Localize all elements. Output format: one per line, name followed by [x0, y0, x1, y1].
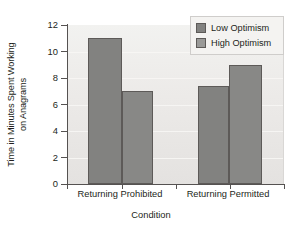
plot-area: Low Optimism High Optimism — [68, 25, 284, 184]
y-tick-8 — [61, 78, 67, 79]
legend-swatch-icon-low-optimism — [196, 23, 206, 33]
bar-low-optimism-returning-permitted — [198, 86, 229, 184]
legend-label-low-optimism: Low Optimism — [211, 23, 269, 33]
legend-item-low-optimism: Low Optimism — [196, 20, 279, 35]
y-axis-title-line2: on Anagrams — [17, 42, 29, 166]
bar-chart-figure: Time in Minutes Spent Working on Anagram… — [0, 0, 302, 238]
y-tick-label-8: 8 — [36, 72, 58, 83]
y-tick-label-0: 0 — [36, 178, 58, 189]
y-tick-label-10: 10 — [36, 46, 58, 57]
y-axis-title-line1: Time in Minutes Spent Working — [6, 42, 18, 166]
x-axis-title: Condition — [0, 210, 302, 220]
y-tick-10 — [61, 51, 67, 52]
x-tick-label-returning-permitted: Returning Permitted — [168, 189, 288, 199]
y-axis-line — [67, 24, 68, 185]
y-tick-label-12: 12 — [36, 19, 58, 30]
x-tick-label-returning-prohibited: Returning Prohibited — [60, 189, 180, 199]
y-tick-label-6: 6 — [36, 99, 58, 110]
bar-high-optimism-returning-permitted — [229, 65, 262, 184]
legend-item-high-optimism: High Optimism — [196, 35, 279, 50]
legend-label-high-optimism: High Optimism — [211, 38, 271, 48]
bar-low-optimism-returning-prohibited — [88, 38, 122, 184]
legend-swatch-icon-high-optimism — [196, 38, 206, 48]
y-tick-2 — [61, 157, 67, 158]
y-tick-6 — [61, 104, 67, 105]
bar-high-optimism-returning-prohibited — [122, 91, 153, 184]
y-tick-label-4: 4 — [36, 125, 58, 136]
y-axis-title: Time in Minutes Spent Working on Anagram… — [6, 42, 29, 166]
legend: Low Optimism High Optimism — [190, 16, 284, 55]
y-tick-4 — [61, 131, 67, 132]
y-axis-title-wrapper: Time in Minutes Spent Working on Anagram… — [0, 0, 34, 200]
y-tick-label-2: 2 — [36, 152, 58, 163]
x-axis-line — [61, 184, 285, 185]
y-tick-12 — [61, 25, 67, 26]
